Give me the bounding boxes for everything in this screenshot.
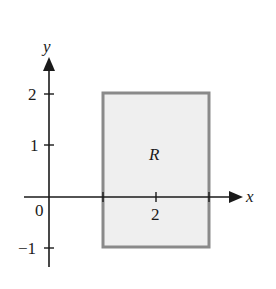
y-tick-label-1: 1	[30, 136, 39, 155]
y-tick-label-2: 2	[28, 85, 37, 104]
y-axis-arrow-icon	[43, 57, 55, 71]
y-tick-label-neg1: −1	[18, 239, 36, 258]
x-tick-label-2: 2	[151, 205, 160, 224]
origin-label: 0	[35, 201, 44, 220]
region-label: R	[148, 145, 160, 164]
x-axis-arrow-icon	[229, 191, 243, 203]
x-axis-label: x	[245, 187, 254, 206]
coordinate-plane: y x 0 2 1 −1 2 R	[0, 0, 276, 289]
y-axis-label: y	[41, 37, 51, 56]
